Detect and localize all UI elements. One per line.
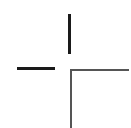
- right-horizontal-line: [70, 69, 129, 71]
- bottom-vertical-line: [70, 69, 72, 128]
- left-horizontal-line: [17, 67, 55, 70]
- top-vertical-line: [68, 14, 71, 54]
